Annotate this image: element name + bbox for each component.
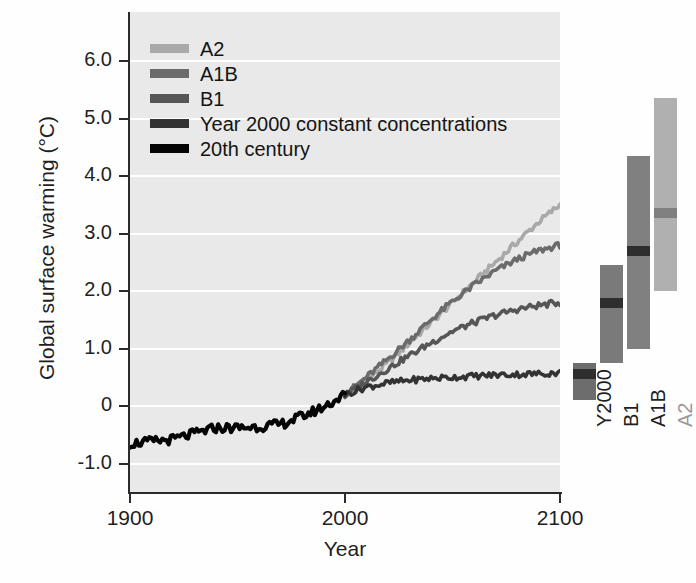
y-axis-line [128,12,130,493]
x-tick-mark [129,493,131,503]
legend-swatch-icon [150,44,189,53]
x-tick-mark [559,493,561,503]
range-bar-a1b [627,156,650,349]
y-tick-label: 6.0 [48,48,112,71]
y-tick-mark [119,463,128,465]
legend-swatch-icon [150,69,189,78]
legend-swatch-icon [150,94,189,103]
y-tick-mark [119,60,128,62]
y-tick-mark [119,175,128,177]
y-tick-mark [119,233,128,235]
legend-swatch-icon [150,119,189,128]
range-bar-a2 [654,98,677,291]
legend-swatch-icon [150,144,189,153]
range-bar-label-a1b: A1B [647,389,670,427]
legend-item-a1b: A1B [150,61,507,86]
legend-item-b1: B1 [150,86,507,111]
legend-label: A2 [200,39,224,59]
series-line-20th-century [130,392,345,448]
legend-item-20th-century: 20th century [150,136,507,161]
x-tick-label: 2000 [322,506,369,530]
x-tick-mark [344,493,346,503]
best-estimate-band-a1b [627,246,650,256]
legend-label: Year 2000 constant concentrations [200,114,507,134]
range-bar-b1 [600,265,623,363]
y-tick-mark [119,405,128,407]
series-line-b1 [345,300,560,395]
range-bar-label-a2: A2 [674,403,696,427]
y-tick-label: -1.0 [48,451,112,474]
legend-label: A1B [200,64,238,84]
y-tick-mark [119,290,128,292]
best-estimate-band-b1 [600,298,623,308]
y-tick-mark [119,348,128,350]
range-bar-label-b1: B1 [620,403,643,427]
x-tick-label: 2100 [537,506,584,530]
legend-item-a2: A2 [150,36,507,61]
range-bar-label-y2000: Y2000 [593,369,616,427]
legend: A2A1BB1Year 2000 constant concentrations… [150,36,507,161]
climate-projection-chart: -1.001.02.03.04.05.06.0 190020002100 Glo… [0,0,696,583]
range-bars-group: Y2000B1A1BA2 [560,12,696,493]
y-axis-title: Global surface warming (°C) [35,83,59,413]
x-tick-label: 1900 [107,506,154,530]
y-tick-mark [119,118,128,120]
x-axis-title: Year [130,537,560,561]
legend-item-year-2000-constant-concentrations: Year 2000 constant concentrations [150,111,507,136]
best-estimate-band-a2 [654,208,677,218]
legend-label: 20th century [200,139,310,159]
legend-label: B1 [200,89,224,109]
